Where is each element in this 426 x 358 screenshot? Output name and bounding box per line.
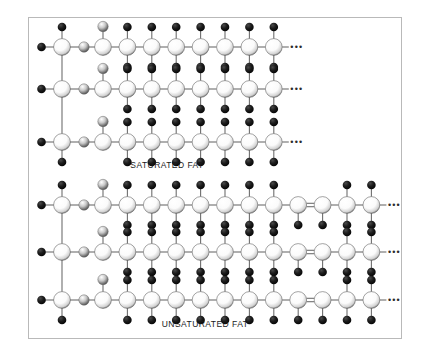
carbon-atom bbox=[363, 244, 380, 261]
carbon-atom bbox=[265, 81, 282, 98]
oxygen-atom bbox=[98, 116, 108, 126]
carbon-atom bbox=[339, 292, 356, 309]
hydrogen-atom bbox=[37, 296, 46, 305]
hydrogen-atom bbox=[221, 118, 230, 127]
hydrogen-atom bbox=[245, 65, 254, 74]
oxygen-atom bbox=[98, 274, 108, 284]
hydrogen-atom bbox=[196, 118, 205, 127]
carbon-atom bbox=[217, 134, 234, 151]
hydrogen-atom bbox=[221, 228, 230, 237]
hydrogen-atom bbox=[123, 118, 132, 127]
hydrogen-atom bbox=[172, 276, 181, 285]
carbon-atom bbox=[363, 197, 380, 214]
hydrogen-atom bbox=[123, 276, 132, 285]
carbon-atom bbox=[95, 81, 112, 98]
carbon-atom bbox=[217, 81, 234, 98]
carbon-atom bbox=[192, 292, 209, 309]
hydrogen-atom bbox=[343, 268, 352, 277]
hydrogen-atom bbox=[196, 268, 205, 277]
chain-continues-ellipsis: ••• bbox=[388, 200, 401, 210]
hydrogen-atom bbox=[148, 65, 157, 74]
hydrogen-atom bbox=[270, 105, 279, 114]
hydrogen-atom bbox=[37, 138, 46, 147]
carbon-atom bbox=[314, 197, 331, 214]
hydrogen-atom bbox=[318, 316, 327, 325]
hydrogen-atom bbox=[270, 276, 279, 285]
hydrogen-atom bbox=[196, 228, 205, 237]
hydrogen-atom bbox=[221, 181, 230, 190]
hydrogen-atom bbox=[367, 268, 376, 277]
hydrogen-atom bbox=[148, 23, 157, 32]
oxygen-atom bbox=[98, 226, 108, 236]
hydrogen-atom bbox=[221, 268, 230, 277]
hydrogen-atom bbox=[196, 105, 205, 114]
hydrogen-atom bbox=[221, 105, 230, 114]
hydrogen-atom bbox=[245, 105, 254, 114]
carbon-atom bbox=[363, 292, 380, 309]
hydrogen-atom bbox=[58, 316, 67, 325]
hydrogen-atom bbox=[148, 105, 157, 114]
carbon-atom bbox=[241, 81, 258, 98]
carbon-atom bbox=[217, 244, 234, 261]
hydrogen-atom bbox=[148, 268, 157, 277]
hydrogen-atom bbox=[270, 268, 279, 277]
hydrogen-atom bbox=[148, 181, 157, 190]
carbon-atom bbox=[143, 81, 160, 98]
carbon-atom bbox=[119, 197, 136, 214]
hydrogen-atom bbox=[367, 276, 376, 285]
hydrogen-atom bbox=[123, 268, 132, 277]
carbon-atom bbox=[143, 292, 160, 309]
oxygen-atom bbox=[98, 63, 108, 73]
carbon-atom bbox=[168, 292, 185, 309]
carbon-atom bbox=[241, 292, 258, 309]
hydrogen-atom bbox=[123, 23, 132, 32]
hydrogen-atom bbox=[318, 221, 327, 230]
carbon-atom bbox=[217, 197, 234, 214]
hydrogen-atom bbox=[245, 158, 254, 167]
carbon-atom bbox=[168, 39, 185, 56]
hydrogen-atom bbox=[367, 181, 376, 190]
molecule-atoms-and-bonds: •••••••••••••••••• bbox=[37, 21, 401, 324]
hydrogen-atom bbox=[37, 43, 46, 52]
hydrogen-atom bbox=[172, 268, 181, 277]
carbon-atom bbox=[192, 134, 209, 151]
hydrogen-atom bbox=[123, 65, 132, 74]
hydrogen-atom bbox=[58, 23, 67, 32]
carbon-atom bbox=[192, 244, 209, 261]
hydrogen-atom bbox=[294, 221, 303, 230]
carbon-atom bbox=[119, 134, 136, 151]
carbon-atom bbox=[241, 39, 258, 56]
carbon-atom bbox=[265, 197, 282, 214]
oxygen-atom bbox=[79, 84, 89, 94]
hydrogen-atom bbox=[245, 181, 254, 190]
hydrogen-atom bbox=[343, 228, 352, 237]
hydrogen-atom bbox=[123, 316, 132, 325]
hydrogen-atom bbox=[196, 276, 205, 285]
carbon-atom bbox=[95, 134, 112, 151]
hydrogen-atom bbox=[343, 276, 352, 285]
carbon-atom bbox=[241, 197, 258, 214]
hydrogen-atom bbox=[123, 228, 132, 237]
carbon-atom bbox=[168, 81, 185, 98]
hydrogen-atom bbox=[148, 276, 157, 285]
hydrogen-atom bbox=[270, 181, 279, 190]
chain-continues-ellipsis: ••• bbox=[388, 295, 401, 305]
carbon-atom bbox=[119, 81, 136, 98]
oxygen-atom bbox=[79, 137, 89, 147]
carbon-atom bbox=[339, 244, 356, 261]
hydrogen-atom bbox=[196, 181, 205, 190]
hydrogen-atom bbox=[245, 268, 254, 277]
oxygen-atom bbox=[79, 42, 89, 52]
oxygen-atom bbox=[98, 179, 108, 189]
hydrogen-atom bbox=[294, 268, 303, 277]
hydrogen-atom bbox=[37, 85, 46, 94]
hydrogen-atom bbox=[270, 158, 279, 167]
chain-continues-ellipsis: ••• bbox=[290, 42, 303, 52]
carbon-atom bbox=[143, 134, 160, 151]
hydrogen-atom bbox=[245, 276, 254, 285]
hydrogen-atom bbox=[58, 181, 67, 190]
hydrogen-atom bbox=[245, 228, 254, 237]
carbon-atom bbox=[143, 39, 160, 56]
hydrogen-atom bbox=[37, 201, 46, 210]
hydrogen-atom bbox=[37, 248, 46, 257]
